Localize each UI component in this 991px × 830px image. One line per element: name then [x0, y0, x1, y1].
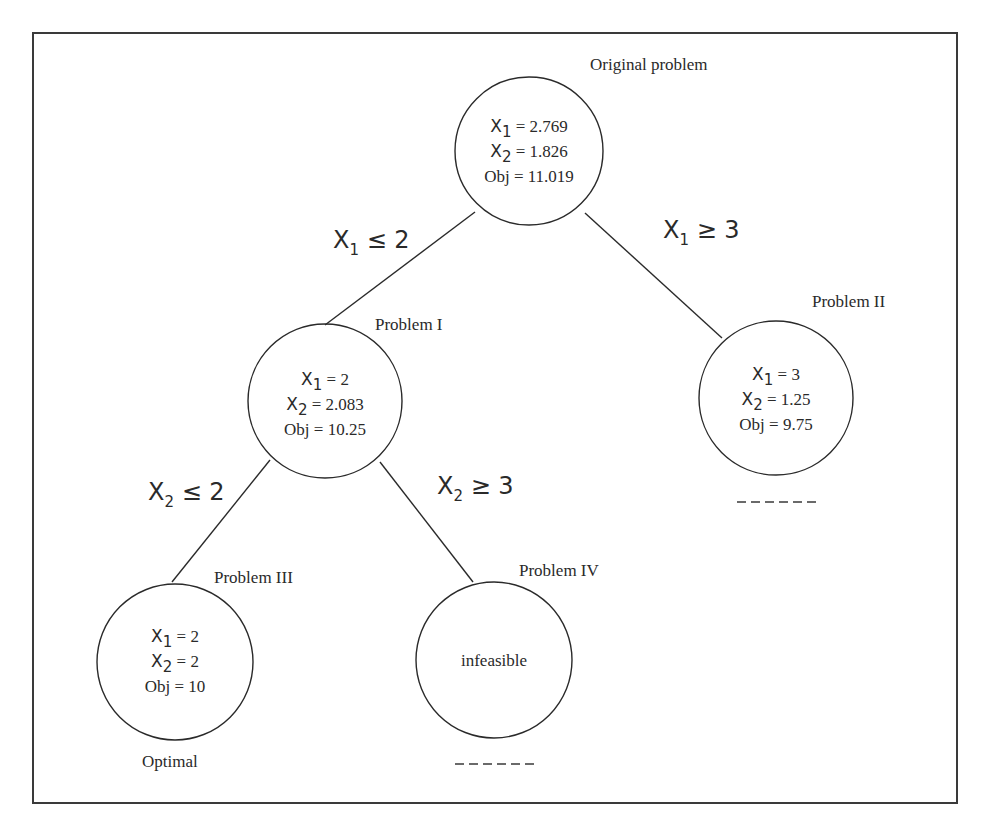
branch-label-x1-le-2: X1 ≤ 2	[333, 226, 410, 259]
node-status-optimal: Optimal	[142, 752, 198, 771]
node-problem-2: Problem II X1 = 3 X2 = 1.25 Obj = 9.75	[699, 292, 886, 502]
node-problem-3: Problem III X1 = 2 X2 = 2 Obj = 10 Optim…	[97, 568, 293, 771]
node-problem-4: Problem IV infeasible	[416, 561, 600, 764]
node-var1-line: X1 = 3	[752, 364, 800, 389]
node-problem-1: Problem I X1 = 2 X2 = 2.083 Obj = 10.25	[248, 315, 443, 478]
branch-label-x2-ge-3: X2 ≥ 3	[437, 472, 514, 505]
node-objective: Obj = 10	[145, 677, 206, 696]
node-title: Problem IV	[519, 561, 600, 580]
node-var2-line: X2 = 2.083	[286, 394, 364, 419]
node-objective: Obj = 11.019	[484, 167, 574, 186]
node-content-infeasible: infeasible	[461, 651, 527, 670]
branch-label-x1-ge-3: X1 ≥ 3	[663, 216, 740, 249]
node-var2-line: X2 = 1.826	[490, 141, 568, 166]
node-objective: Obj = 9.75	[739, 415, 812, 434]
node-original-problem: Original problem X1 = 2.769 X2 = 1.826 O…	[455, 55, 708, 225]
node-var2-line: X2 = 1.25	[741, 389, 810, 414]
node-title: Original problem	[590, 55, 708, 74]
node-var1-line: X1 = 2	[151, 626, 199, 651]
node-title: Problem III	[214, 568, 293, 587]
node-objective: Obj = 10.25	[284, 420, 366, 439]
node-var1-line: X1 = 2.769	[490, 116, 568, 141]
node-var1-line: X1 = 2	[301, 369, 349, 394]
edge-problem-1-to-problem-4	[380, 462, 473, 582]
node-title: Problem II	[812, 292, 886, 311]
node-var2-line: X2 = 2	[151, 651, 199, 676]
branch-and-bound-diagram: Original problem X1 = 2.769 X2 = 1.826 O…	[0, 0, 991, 830]
branch-label-x2-le-2: X2 ≤ 2	[148, 478, 225, 511]
node-title: Problem I	[375, 315, 443, 334]
